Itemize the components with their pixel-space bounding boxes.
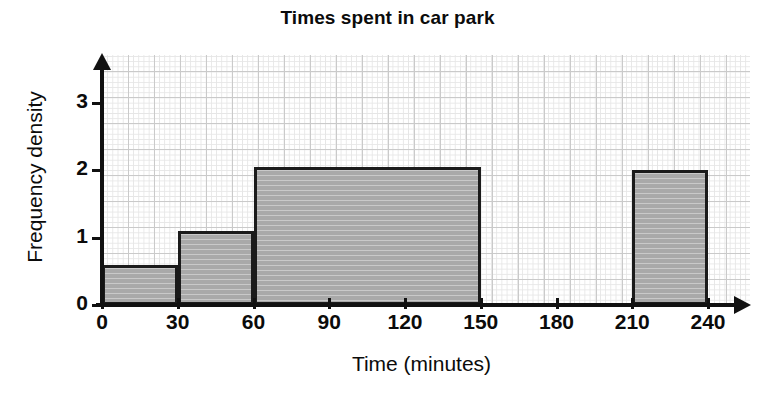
x-axis-tick-label: 30 (148, 310, 208, 334)
x-axis-tick (480, 298, 483, 309)
x-axis-tick-label: 60 (224, 310, 284, 334)
x-axis-tick (707, 298, 710, 309)
x-axis-tick-label: 240 (678, 310, 738, 334)
x-axis-tick-label: 90 (299, 310, 359, 334)
x-axis-tick-label: 150 (451, 310, 511, 334)
x-axis-tick (404, 298, 407, 309)
x-axis-tick (177, 298, 180, 309)
x-axis-tick (556, 298, 559, 309)
y-axis-tick (92, 237, 104, 240)
x-axis-tick (328, 298, 331, 309)
histogram-bar (632, 170, 708, 305)
x-axis-tick (253, 298, 256, 309)
y-axis-title: Frequency density (23, 62, 47, 292)
x-axis-title: Time (minutes) (0, 352, 775, 376)
x-axis-tick (631, 298, 634, 309)
histogram-figure: Times spent in car park 0306090120150180… (0, 0, 775, 405)
y-axis-tick-label: 3 (62, 89, 88, 113)
y-axis-tick (92, 169, 104, 172)
y-axis-tick (92, 102, 104, 105)
x-axis-tick-label: 180 (527, 310, 587, 334)
y-axis-tick (92, 304, 104, 307)
histogram-bar (254, 167, 481, 305)
histogram-bar (102, 265, 178, 306)
histogram-bar (178, 231, 254, 305)
x-axis-line (96, 303, 742, 307)
x-axis-tick-label: 210 (602, 310, 662, 334)
y-axis-tick-label: 2 (62, 156, 88, 180)
chart-title: Times spent in car park (0, 7, 775, 29)
y-axis-arrow-icon (93, 53, 111, 70)
y-axis-tick-label: 0 (62, 291, 88, 315)
y-axis-tick-label: 1 (62, 224, 88, 248)
x-axis-tick-label: 120 (375, 310, 435, 334)
